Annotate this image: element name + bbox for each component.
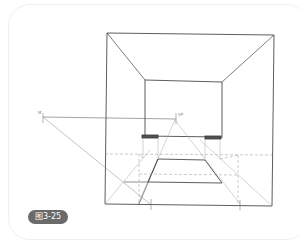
vanishing-point-label: VP <box>178 112 183 117</box>
perspective-drawing <box>0 0 300 242</box>
back-furniture <box>142 135 223 139</box>
furniture-verticals <box>143 138 220 159</box>
measuring-line <box>43 117 150 204</box>
figure-caption-badge: 图3-25 <box>28 210 68 224</box>
floor-rug <box>148 159 222 183</box>
back-wall <box>145 80 222 136</box>
measuring-point-label: M <box>38 110 41 115</box>
outer-frame <box>105 33 274 206</box>
ceiling-edges <box>107 33 274 82</box>
horizon-line <box>43 117 176 119</box>
vp-rays <box>105 120 272 206</box>
dashed-lines <box>105 154 272 205</box>
